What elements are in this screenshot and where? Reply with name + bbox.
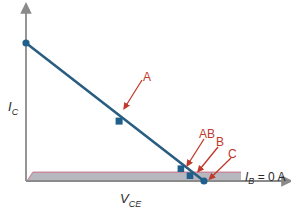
y-axis-label-subscript: C (12, 107, 19, 117)
figure-canvas: IC VCE A AB B C IB = 0 A (0, 0, 291, 217)
data-point-a (116, 118, 123, 125)
base-current-label: IB = 0 A (245, 171, 285, 186)
annotation-label-b: B (216, 136, 224, 148)
saturation-band (27, 172, 241, 181)
arrow-a (125, 80, 143, 108)
x-axis-label-subscript: CE (129, 199, 142, 209)
arrow-ab (188, 139, 205, 165)
annotation-label-a: A (143, 71, 151, 83)
data-point-top (22, 39, 29, 46)
data-point-b (187, 172, 194, 179)
data-point-ab (178, 165, 185, 172)
x-axis-label: VCE (120, 192, 141, 209)
annotation-label-c: C (228, 148, 237, 160)
axis-lines (26, 12, 283, 181)
annotation-label-ab: AB (199, 128, 215, 140)
annotation-arrows (125, 80, 232, 179)
base-current-value: = 0 A (254, 170, 285, 184)
load-line-series (22, 39, 207, 184)
data-point-c (200, 177, 207, 184)
x-axis-label-symbol: V (120, 191, 129, 206)
y-axis-label: IC (8, 100, 18, 117)
arrow-b (199, 147, 219, 171)
